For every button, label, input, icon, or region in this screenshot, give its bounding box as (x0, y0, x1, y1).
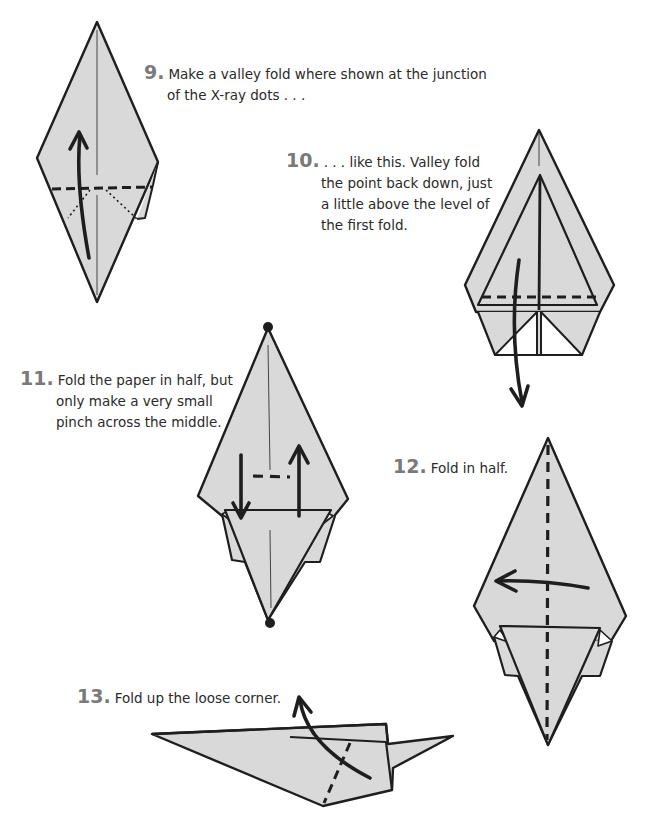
step-12-diagram (474, 438, 626, 745)
step-10-caption: 10.. . . like this. Valley fold the poin… (286, 150, 492, 236)
step-number: 11. (20, 367, 54, 389)
caption-line: the first fold. (286, 215, 492, 236)
step-number: 9. (144, 61, 164, 83)
caption-line: a little above the level of (286, 194, 492, 215)
reference-dot-icon (263, 322, 273, 332)
caption-line: . . . like this. Valley fold (324, 154, 480, 170)
caption-line: the point back down, just (286, 173, 492, 194)
caption-line: Fold up the loose corner. (115, 690, 281, 706)
step-12-caption: 12.Fold in half. (393, 456, 508, 479)
step-9-caption: 9.Make a valley fold where shown at the … (144, 62, 487, 106)
step-13-diagram (152, 697, 453, 806)
step-number: 13. (77, 685, 111, 707)
caption-line: pinch across the middle. (20, 412, 233, 433)
reference-dot-icon (265, 618, 275, 628)
step-13-caption: 13.Fold up the loose corner. (77, 686, 281, 709)
step-11-caption: 11.Fold the paper in half, but only make… (20, 368, 233, 433)
caption-line: only make a very small (20, 391, 233, 412)
caption-line: of the X-ray dots . . . (144, 85, 487, 106)
caption-line: Make a valley fold where shown at the ju… (168, 66, 486, 82)
step-9-diagram (37, 22, 158, 302)
step-number: 10. (286, 149, 320, 171)
caption-line: Fold in half. (431, 460, 508, 476)
caption-line: Fold the paper in half, but (58, 372, 233, 388)
step-number: 12. (393, 455, 427, 477)
